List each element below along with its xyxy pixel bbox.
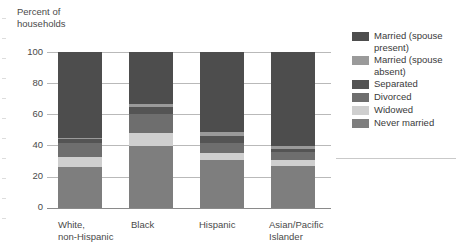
x-label-black: Black xyxy=(131,219,154,231)
legend-swatch-icon xyxy=(352,119,369,128)
legend-swatch-icon xyxy=(352,80,369,89)
bar-asian-pacific-islander xyxy=(271,52,315,208)
x-label-white-non-hispanic: White, non-Hispanic xyxy=(58,219,113,242)
bar-segment xyxy=(58,143,102,157)
bar-hispanic xyxy=(200,52,244,208)
y-axis-title: Percent of households xyxy=(17,6,66,29)
legend-item-divorced: Divorced xyxy=(352,91,461,103)
bar-white-non-hispanic xyxy=(58,52,102,208)
y-axis-tick-labels: 100 80 60 40 20 0 xyxy=(13,52,43,208)
legend-item-separated: Separated xyxy=(352,78,461,90)
bar-segment xyxy=(129,107,173,115)
bar-segment xyxy=(58,167,102,208)
bar-segment xyxy=(200,143,244,154)
y-tick-80: 80 xyxy=(17,77,43,88)
legend-swatch-icon xyxy=(352,93,369,102)
x-label-asian-pacific-islander: Asian/Pacific Islander xyxy=(269,219,323,242)
scan-edge-artifact xyxy=(0,0,10,250)
bar-segment xyxy=(129,133,173,145)
legend-swatch-icon xyxy=(352,32,369,41)
bar-segment xyxy=(200,160,244,208)
bar-black xyxy=(129,52,173,208)
y-tick-20: 20 xyxy=(17,170,43,181)
legend-label: Separated xyxy=(374,78,418,90)
bar-segment xyxy=(129,52,173,103)
bar-segment xyxy=(200,52,244,132)
legend-label: Married (spouse present) xyxy=(374,30,443,53)
stacked-bar-chart: Percent of households 100 80 60 40 20 0 … xyxy=(0,0,461,250)
y-tick-60: 60 xyxy=(17,108,43,119)
bar-segment xyxy=(58,52,102,138)
legend-label: Never married xyxy=(374,117,434,129)
x-label-hispanic: Hispanic xyxy=(199,219,235,231)
x-axis-category-labels: White, non-Hispanic Black Hispanic Asian… xyxy=(47,219,331,249)
bar-segment xyxy=(129,146,173,208)
legend-label: Married (spouse absent) xyxy=(374,54,443,77)
legend-swatch-icon xyxy=(352,106,369,115)
bar-segment xyxy=(129,114,173,133)
y-tick-100: 100 xyxy=(17,46,43,57)
bar-segment xyxy=(58,157,102,168)
y-tick-0: 0 xyxy=(17,201,43,212)
legend-item-never-married: Never married xyxy=(352,117,461,129)
legend-item-married-spouse-present: Married (spouse present) xyxy=(352,30,461,53)
legend-label: Widowed xyxy=(374,104,413,116)
legend: Married (spouse present) Married (spouse… xyxy=(352,30,461,130)
legend-item-married-spouse-absent: Married (spouse absent) xyxy=(352,54,461,77)
bar-segment xyxy=(271,166,315,208)
legend-swatch-icon xyxy=(352,56,369,65)
bar-segment xyxy=(271,152,315,160)
y-tick-40: 40 xyxy=(17,139,43,150)
plot-area xyxy=(47,52,331,208)
legend-label: Divorced xyxy=(374,91,412,103)
axis-baseline xyxy=(47,208,331,209)
legend-item-widowed: Widowed xyxy=(352,104,461,116)
bar-segment xyxy=(271,52,315,146)
legend-bottom-rule xyxy=(336,158,456,159)
